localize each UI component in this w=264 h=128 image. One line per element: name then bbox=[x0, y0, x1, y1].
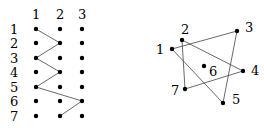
graph-node bbox=[170, 47, 174, 51]
grid-dot bbox=[80, 56, 84, 60]
graph-node bbox=[241, 69, 245, 73]
grid-dot bbox=[34, 99, 38, 103]
grid-dot bbox=[58, 70, 62, 74]
grid-dot bbox=[80, 27, 84, 31]
node-label: 1 bbox=[156, 42, 164, 57]
grid-dot bbox=[80, 70, 84, 74]
node-label: 2 bbox=[181, 22, 189, 37]
column-label: 1 bbox=[32, 7, 40, 22]
row-label: 1 bbox=[10, 22, 18, 37]
grid-dot bbox=[34, 85, 38, 89]
grid-dot bbox=[34, 114, 38, 118]
node-label: 5 bbox=[232, 92, 240, 107]
grid-dot bbox=[58, 99, 62, 103]
grid-diagram: 1 2 3 1 2 3 4 5 6 7 bbox=[10, 7, 86, 124]
grid-dot bbox=[58, 85, 62, 89]
graph-node bbox=[221, 101, 225, 105]
grid-dot bbox=[58, 27, 62, 31]
grid-dot bbox=[80, 99, 84, 103]
column-label: 3 bbox=[78, 7, 86, 22]
grid-dot bbox=[34, 70, 38, 74]
node-label: 3 bbox=[245, 20, 253, 35]
grid-dot bbox=[58, 56, 62, 60]
grid-dot bbox=[58, 41, 62, 45]
grid-dot bbox=[80, 114, 84, 118]
grid-dot bbox=[34, 56, 38, 60]
row-label: 6 bbox=[10, 94, 18, 109]
node-label: 6 bbox=[209, 64, 217, 79]
diagram-canvas: 1 2 3 1 2 3 4 5 6 7 bbox=[0, 0, 264, 128]
row-label: 7 bbox=[10, 109, 18, 124]
row-label: 4 bbox=[10, 65, 18, 80]
graph-node bbox=[180, 38, 184, 42]
graph-node bbox=[202, 64, 206, 68]
row-label: 5 bbox=[10, 80, 18, 95]
graph-edge-7-2 bbox=[182, 40, 185, 89]
grid-dot bbox=[58, 114, 62, 118]
node-label: 7 bbox=[171, 83, 179, 98]
grid-dot bbox=[80, 85, 84, 89]
row-label: 3 bbox=[10, 51, 18, 66]
graph-diagram: 1 2 3 4 5 6 7 bbox=[156, 20, 259, 107]
grid-dot bbox=[80, 41, 84, 45]
node-label: 4 bbox=[251, 63, 259, 78]
column-label: 2 bbox=[56, 7, 64, 22]
grid-dot bbox=[34, 41, 38, 45]
graph-node bbox=[183, 87, 187, 91]
graph-node bbox=[235, 29, 239, 33]
grid-dot bbox=[34, 27, 38, 31]
row-label: 2 bbox=[10, 36, 18, 51]
